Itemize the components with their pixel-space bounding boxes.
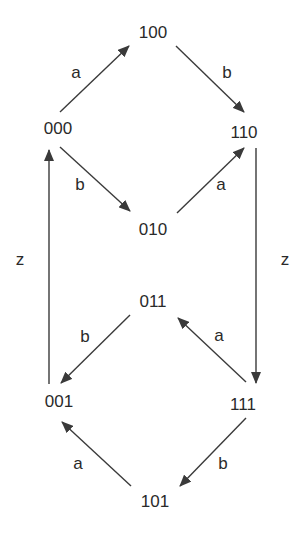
edges-layer: [49, 46, 256, 486]
edge-arrow-111-to-101: [180, 418, 246, 486]
state-node-110: 110: [230, 123, 257, 142]
edge-label-011-to-001: b: [80, 327, 89, 346]
state-node-111: 111: [230, 395, 256, 414]
edge-arrow-100-to-110: [176, 46, 244, 112]
edge-arrow-011-to-001: [61, 315, 130, 383]
state-node-001: 001: [45, 392, 73, 411]
state-diagram: abbazzbaba 000100110010011001111101: [0, 0, 304, 533]
state-node-101: 101: [141, 492, 169, 511]
edge-label-100-to-110: b: [222, 63, 231, 82]
edge-label-001-to-000: z: [16, 250, 25, 269]
edge-label-101-to-001: a: [73, 454, 83, 473]
state-node-000: 000: [44, 119, 72, 138]
edge-label-110-to-111: z: [281, 250, 290, 269]
state-node-011: 011: [139, 292, 166, 311]
edge-label-000-to-100: a: [71, 63, 81, 82]
edge-label-111-to-101: b: [218, 454, 227, 473]
edge-label-000-to-010: b: [75, 175, 84, 194]
edge-arrow-010-to-110: [177, 148, 244, 213]
state-node-010: 010: [139, 220, 167, 239]
edge-arrow-111-to-011: [178, 318, 246, 382]
edge-arrow-000-to-010: [60, 147, 130, 211]
state-node-100: 100: [139, 23, 167, 42]
edge-label-111-to-011: a: [214, 326, 224, 345]
edge-label-010-to-110: a: [216, 175, 226, 194]
